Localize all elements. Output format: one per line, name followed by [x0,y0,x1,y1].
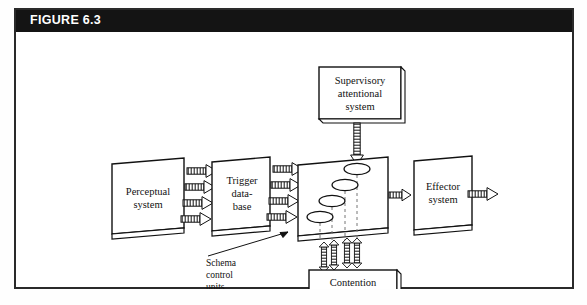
effector-system-label-line-2: system [428,194,457,205]
trigger-database-label-line-3: base [233,201,252,212]
node-perceptual-system[interactable]: Perceptual system [112,158,184,239]
perceptual-system-label-line-2: system [133,199,162,210]
effector-system-label-line-1: Effector [426,181,461,192]
contention-scheduling-label-line-1: Contention [330,277,377,288]
node-schema-control-slab[interactable] [298,157,388,241]
edge-schema-to-effector [389,189,411,201]
diagram-svg: Perceptual system Trigger data- base [16,32,572,289]
schema-annotation-line-2: control [206,270,233,280]
schema-annotation-line-1: Schema [206,258,237,268]
node-supervisory-attentional-system[interactable]: Supervisory attentional system [319,67,405,123]
node-trigger-database[interactable]: Trigger data- base [212,157,270,236]
schema-annotation-line-3: units [206,282,225,289]
supervisory-system-label-line-1: Supervisory [335,75,386,86]
figure-title: FIGURE 6.3 [30,13,101,27]
trigger-database-label-line-2: data- [232,188,253,199]
perceptual-system-label-line-1: Perceptual [126,186,170,197]
schema-unit-2 [332,179,358,190]
edge-schema-to-contention [319,238,362,272]
figure-frame: FIGURE 6.3 [14,8,574,289]
annotation-schema-control-units: Schema control units [206,232,288,289]
schema-annotation-arrowhead [280,232,288,238]
supervisory-system-label-line-2: attentional [338,88,382,99]
effector-system-slab-top [414,156,472,230]
schema-unit-4 [307,211,333,222]
schema-unit-1 [344,163,370,174]
schema-unit-3 [319,195,345,206]
node-effector-system[interactable]: Effector system [414,156,472,235]
trigger-database-label-line-1: Trigger [226,175,258,186]
supervisory-system-label-line-3: system [345,101,374,112]
diagram-canvas: Perceptual system Trigger data- base [16,32,572,289]
figure-panel: FIGURE 6.3 [0,0,587,305]
node-contention-scheduling[interactable]: Contention scheduling [309,270,401,289]
figure-title-bar: FIGURE 6.3 [16,10,572,32]
schema-slab-top [298,157,388,236]
